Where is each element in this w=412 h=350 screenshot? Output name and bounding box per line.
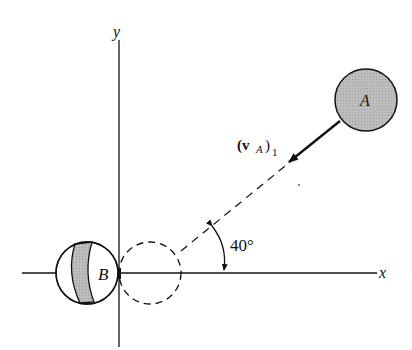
x-axis-label: x <box>378 264 386 281</box>
y-axis-label: y <box>111 23 121 41</box>
angle-arc <box>212 226 225 270</box>
velocity-arrow <box>289 121 340 162</box>
velocity-label-main: (v <box>237 137 250 154</box>
collision-diagram: y x B A (v A ) 1 40° <box>0 0 412 350</box>
angle-label: 40° <box>230 236 254 255</box>
velocity-label-index: 1 <box>272 146 278 158</box>
stray-dot <box>298 184 300 186</box>
velocity-label-close: ) <box>265 137 270 154</box>
ball-b-label: B <box>98 265 109 284</box>
velocity-label: (v A ) 1 <box>237 137 278 158</box>
velocity-label-sub: A <box>255 143 263 155</box>
ball-a-label: A <box>359 92 370 109</box>
ball-b <box>56 242 118 304</box>
